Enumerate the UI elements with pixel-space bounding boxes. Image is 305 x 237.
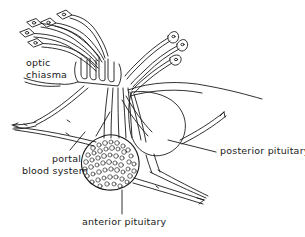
label-anterior-pituitary: anterior pituitary xyxy=(82,216,166,228)
label-portal-line2: blood system xyxy=(22,165,88,177)
figure-canvas: optic chiasma portal blood system anteri… xyxy=(0,0,305,237)
label-optic-chiasma: optic chiasma xyxy=(26,57,67,81)
label-optic-chiasma-line1: optic xyxy=(26,57,50,68)
label-optic-chiasma-line2: chiasma xyxy=(26,69,67,80)
background xyxy=(0,0,305,237)
label-portal-line1: portal xyxy=(22,153,88,165)
label-posterior-pituitary: posterior pituitary xyxy=(220,145,305,157)
pituitary-diagram-illustration xyxy=(0,0,305,237)
label-portal-blood-system: portal blood system xyxy=(22,153,88,177)
